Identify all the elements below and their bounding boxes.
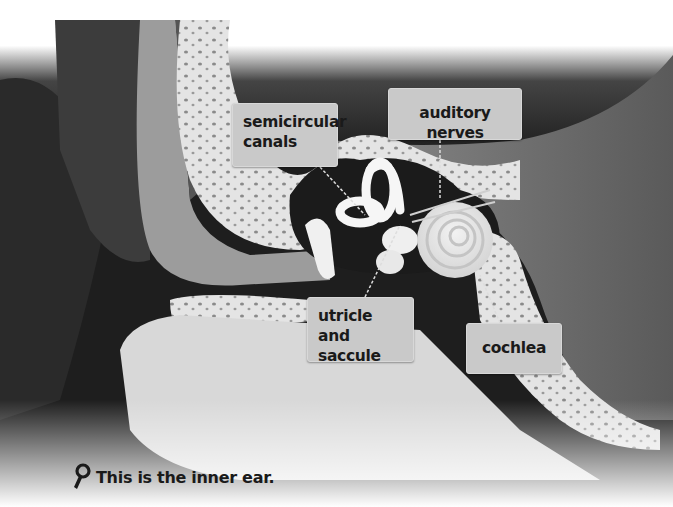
label-semicircular-canals: semicircular canals	[232, 103, 338, 167]
inner-ear-illustration	[0, 0, 673, 507]
magnifier-icon	[70, 463, 92, 491]
label-auditory-nerves: auditory nerves	[388, 88, 522, 140]
caption-text: This is the inner ear.	[96, 468, 274, 487]
label-utricle-and-saccule: utricle and saccule	[307, 297, 414, 362]
label-cochlea-line1: cochlea	[477, 338, 551, 358]
label-semicircular-canals-line1: semicircular	[243, 112, 327, 132]
label-auditory-nerves-line1: auditory nerves	[399, 103, 511, 143]
label-semicircular-canals-line2: canals	[243, 132, 327, 152]
label-utricle-line1: utricle and	[318, 306, 403, 346]
label-utricle-line2: saccule	[318, 346, 403, 366]
label-cochlea: cochlea	[466, 323, 562, 374]
caption: This is the inner ear.	[70, 463, 274, 491]
